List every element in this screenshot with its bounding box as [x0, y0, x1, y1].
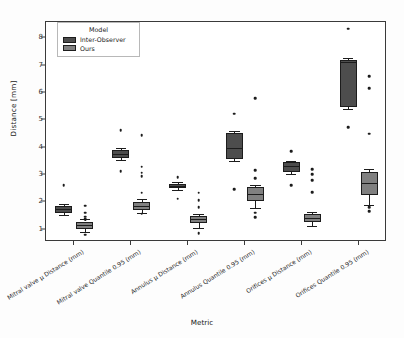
boxplot-whisker-cap [343, 58, 353, 59]
boxplot-whisker-cap [193, 214, 203, 215]
boxplot-outlier [233, 188, 236, 191]
boxplot-median [226, 148, 243, 149]
boxplot-outlier [254, 211, 257, 214]
boxplot-whisker-cap [229, 131, 239, 132]
boxplot-outlier [290, 150, 293, 153]
boxplot-outlier [197, 199, 200, 202]
x-tick-label: Orifices Quantile 0.95 (mm) [264, 248, 369, 318]
boxplot-outlier [197, 232, 200, 235]
boxplot-box [226, 133, 243, 159]
boxplot-median [247, 194, 264, 195]
legend-swatch [63, 37, 76, 43]
boxplot-whisker-cap [307, 226, 317, 227]
boxplot-median [55, 209, 72, 210]
boxplot-whisker [369, 195, 370, 205]
boxplot-outlier [368, 75, 371, 78]
boxplot-whisker-cap [116, 160, 126, 161]
boxplot-outlier [140, 213, 143, 216]
boxplot-outlier [84, 218, 87, 221]
boxplot-whisker-cap [307, 212, 317, 213]
x-tick-mark [301, 241, 302, 245]
x-tick-mark [358, 241, 359, 245]
boxplot-median [112, 154, 129, 155]
boxplot-whisker-cap [343, 109, 353, 110]
figure-canvas: Distance [mm] Metric 12345678 Mitral val… [0, 0, 404, 338]
boxplot-outlier [368, 87, 371, 90]
boxplot-outlier [197, 206, 200, 209]
legend-entries: Inter-ObserverOurs [63, 36, 134, 52]
boxplot-median [361, 183, 378, 184]
y-axis-title: Distance [mm] [9, 81, 18, 137]
boxplot-outlier [311, 173, 314, 176]
x-tick-label: Annulus Quantile 0.95 (mm) [150, 248, 255, 318]
boxplot-outlier [119, 129, 122, 132]
boxplot-whisker-cap [229, 161, 239, 162]
boxplot-outlier [84, 233, 87, 236]
boxplot-whisker-cap [137, 199, 147, 200]
x-tick-mark [187, 241, 188, 245]
legend-label: Inter-Observer [80, 36, 126, 43]
legend-entry: Inter-Observer [63, 36, 134, 43]
boxplot-outlier [233, 112, 236, 115]
boxplot-whisker-cap [59, 215, 69, 216]
legend-swatch [63, 45, 76, 51]
boxplot-whisker-cap [193, 228, 203, 229]
boxplot-whisker-cap [250, 208, 260, 209]
boxplot-whisker-cap [286, 174, 296, 175]
x-tick-mark [244, 241, 245, 245]
boxplot-whisker-cap [172, 182, 182, 183]
boxplot-outlier [176, 176, 179, 179]
boxplot-outlier [254, 216, 257, 219]
boxplot-outlier [254, 97, 257, 100]
x-tick-mark [73, 241, 74, 245]
boxplot-outlier [84, 211, 87, 214]
boxplot-whisker-cap [116, 148, 126, 149]
boxplot-median [133, 206, 150, 207]
boxplot-median [304, 218, 321, 219]
boxplot-outlier [368, 206, 371, 209]
boxplot-outlier [63, 184, 66, 187]
boxplot-whisker-cap [59, 204, 69, 205]
x-tick-label: Annulus µ Distance (mm) [93, 248, 198, 318]
boxplot-outlier [140, 175, 143, 178]
boxplot-outlier [311, 191, 314, 194]
boxplot-whisker-cap [364, 169, 374, 170]
boxplot-whisker-cap [172, 190, 182, 191]
boxplot-outlier [254, 177, 257, 180]
boxplot-outlier [176, 197, 179, 200]
boxplot-outlier [140, 192, 143, 195]
boxplot-outlier [368, 132, 371, 135]
boxplot-whisker [255, 201, 256, 208]
boxplot-median [340, 62, 357, 63]
x-tick-label: Orifices µ Distance (mm) [207, 248, 312, 318]
legend-title: Model [63, 26, 134, 34]
boxplot-median [169, 186, 186, 187]
boxplot-outlier [140, 172, 143, 175]
legend-label: Ours [80, 45, 95, 52]
boxplot-outlier [197, 192, 200, 195]
boxplot-outlier [347, 126, 350, 129]
x-tick-mark [130, 241, 131, 245]
boxplot-box [340, 60, 357, 108]
x-axis-title: Metric [0, 318, 404, 327]
boxplot-outlier [311, 168, 314, 171]
boxplot-whisker-cap [286, 161, 296, 162]
boxplot-outlier [368, 210, 371, 213]
boxplot-median [190, 219, 207, 220]
boxplot-outlier [290, 184, 293, 187]
boxplot-outlier [311, 179, 314, 182]
boxplot-outlier [119, 170, 122, 173]
boxplot-outlier [84, 204, 87, 207]
boxplot-outlier [254, 169, 257, 172]
boxplot-outlier [140, 166, 143, 169]
boxplot-outlier [347, 28, 350, 31]
boxplot-median [283, 166, 300, 167]
boxplot-whisker-cap [250, 185, 260, 186]
legend-entry: Ours [63, 45, 134, 52]
x-tick-label: Mitral valve Quantile 0.95 (mm) [36, 248, 141, 318]
legend: Model Inter-ObserverOurs [57, 22, 140, 57]
boxplot-median [76, 225, 93, 226]
boxplot-outlier [140, 134, 143, 137]
